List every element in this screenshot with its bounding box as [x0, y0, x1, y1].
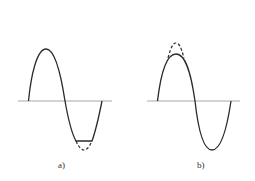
wave-a-dashed-trough: [76, 141, 92, 150]
panel-b-label: b): [197, 160, 205, 170]
panel-a-label: a): [58, 160, 65, 170]
wave-a-positive: [29, 49, 66, 101]
wave-a-negative-clipped: [65, 101, 102, 141]
panel-a: a): [18, 49, 112, 170]
wave-b-negative: [195, 101, 231, 150]
waveform-diagram: a) b): [0, 0, 255, 181]
panel-b: b): [147, 43, 240, 170]
wave-b-positive-reduced: [158, 54, 196, 101]
